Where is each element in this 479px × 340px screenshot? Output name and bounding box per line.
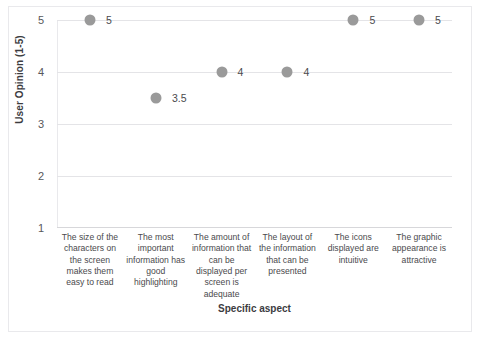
x-axis-category-labels: The size of the characters on the screen…	[57, 232, 452, 302]
x-category-label-1: The size of the characters on the screen…	[57, 232, 123, 302]
gridline-5	[57, 20, 452, 21]
data-label-2: 3.5	[172, 92, 187, 104]
data-point-2[interactable]	[150, 93, 161, 104]
x-category-label-5: The icons displayed are intuitive	[320, 232, 386, 302]
data-label-6: 5	[435, 14, 441, 26]
y-axis-tick-labels: 5 4 3 2 1	[0, 20, 52, 228]
data-point-3[interactable]	[216, 67, 227, 78]
x-category-label-4: The layout of the information that can b…	[254, 232, 320, 302]
gridline-2	[57, 176, 452, 177]
x-category-label-3: The amount of information that can be di…	[189, 232, 255, 302]
x-axis-title: Specific aspect	[57, 303, 452, 314]
x-category-label-2: The most important information has good …	[123, 232, 189, 302]
y-tick-label-2: 2	[38, 170, 44, 182]
data-point-1[interactable]	[84, 15, 95, 26]
data-label-4: 4	[303, 66, 309, 78]
data-point-4[interactable]	[282, 67, 293, 78]
gridline-4	[57, 72, 452, 73]
x-category-label-6: The graphic appearance is attractive	[386, 232, 452, 302]
x-axis-line	[57, 227, 452, 228]
chart-container: User Opinion (1-5) 5 4 3 2 1 5 3.5 4 4 5…	[0, 0, 479, 340]
data-point-5[interactable]	[348, 15, 359, 26]
gridline-3	[57, 124, 452, 125]
data-label-1: 5	[106, 14, 112, 26]
y-tick-label-1: 1	[38, 222, 44, 234]
data-label-5: 5	[369, 14, 375, 26]
data-point-6[interactable]	[414, 15, 425, 26]
y-tick-label-5: 5	[38, 14, 44, 26]
data-label-3: 4	[238, 66, 244, 78]
y-tick-label-4: 4	[38, 66, 44, 78]
y-tick-label-3: 3	[38, 118, 44, 130]
plot-area: 5 3.5 4 4 5 5	[57, 20, 452, 228]
